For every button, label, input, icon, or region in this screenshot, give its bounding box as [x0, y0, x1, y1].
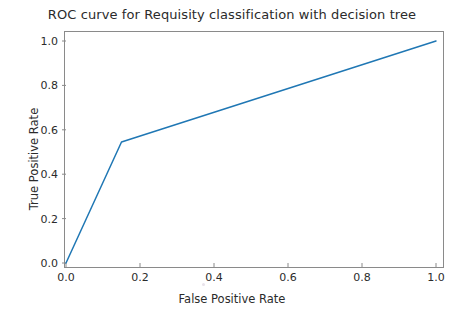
roc-curve-figure: ROC curve for Requisity classification w… [0, 0, 464, 314]
y-tick-label: 1.0 [28, 35, 58, 48]
plot-area [64, 31, 444, 268]
chart-title: ROC curve for Requisity classification w… [0, 7, 464, 22]
x-tick-label: 1.0 [427, 271, 445, 284]
y-tick-label: 0.0 [28, 257, 58, 270]
y-axis-label: True Positive Rate [27, 79, 41, 239]
x-tick-label: 0.6 [279, 271, 297, 284]
x-tick-label: 0.0 [57, 271, 75, 284]
x-tick-label: 0.8 [353, 271, 371, 284]
x-tick-label: 0.2 [131, 271, 149, 284]
x-tick-label: 0.4 [205, 271, 223, 284]
x-axis-label: False Positive Rate [0, 292, 464, 306]
